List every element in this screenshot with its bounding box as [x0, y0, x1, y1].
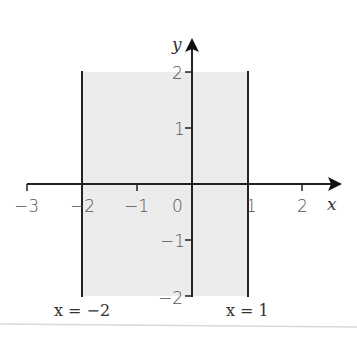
y-tick-label: 1: [174, 119, 185, 139]
divider: [0, 324, 357, 327]
x-tick-label: −2: [70, 196, 95, 216]
x-axis-label: x: [327, 194, 337, 214]
x-tick-label: −3: [14, 196, 39, 216]
y-tick-label: 2: [172, 63, 183, 83]
y-tick-label: −1: [160, 231, 185, 251]
label-x-minus-2: x = −2: [54, 301, 110, 320]
y-tick-label: −2: [158, 288, 183, 308]
origin-label: 0: [172, 196, 183, 216]
graph: −3 −2 −1 0 1 2 2 1 −1 −2 x y x = −2 x = …: [0, 0, 357, 344]
label-x-1: x = 1: [226, 301, 269, 320]
x-tick-label: 2: [297, 196, 308, 216]
x-tick-label: 1: [246, 196, 257, 216]
y-axis-label: y: [171, 34, 182, 54]
x-tick-label: −1: [124, 196, 149, 216]
